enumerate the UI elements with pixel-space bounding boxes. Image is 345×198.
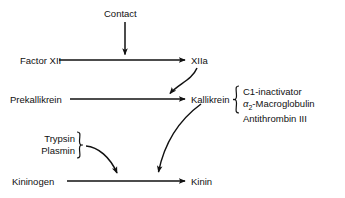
inhibitor-brace [233,86,239,113]
activator-group: Trypsin Plasmin [23,133,75,157]
node-label-kininogen: Kininogen [12,176,54,187]
node-label-kinin: Kinin [191,176,212,187]
inhibitor-group: C1-inactivator α2-Macroglobulin Antithro… [243,86,315,124]
inhibitor-label-antithrombin-iii: Antithrombin III [243,113,315,125]
arrow-xiia-to-kallikrein-line [170,68,197,94]
arrow-activators-to-kininogen-line [86,146,117,173]
inhibitor-label-c1-inactivator: C1-inactivator [243,86,315,98]
node-label-factor-xii: Factor XII [20,55,61,66]
node-label-xiia: XIIa [191,55,208,66]
node-label-prekallikrein: Prekallikrein [10,94,62,105]
activator-label-trypsin: Trypsin [23,133,75,145]
inhibitor-label-alpha2-macroglobulin: α2-Macroglobulin [243,98,315,113]
arrow-kallikrein-to-kinin-line [159,104,202,172]
node-label-kallikrein: Kallikrein [191,94,230,105]
node-label-contact: Contact [104,8,137,19]
macroglobulin-text: -Macroglobulin [252,98,314,109]
activator-label-plasmin: Plasmin [23,145,75,157]
pathway-diagram: XIIa --> Kallikrein --> Kinin --> Contac… [0,0,345,198]
activator-brace [77,132,83,158]
